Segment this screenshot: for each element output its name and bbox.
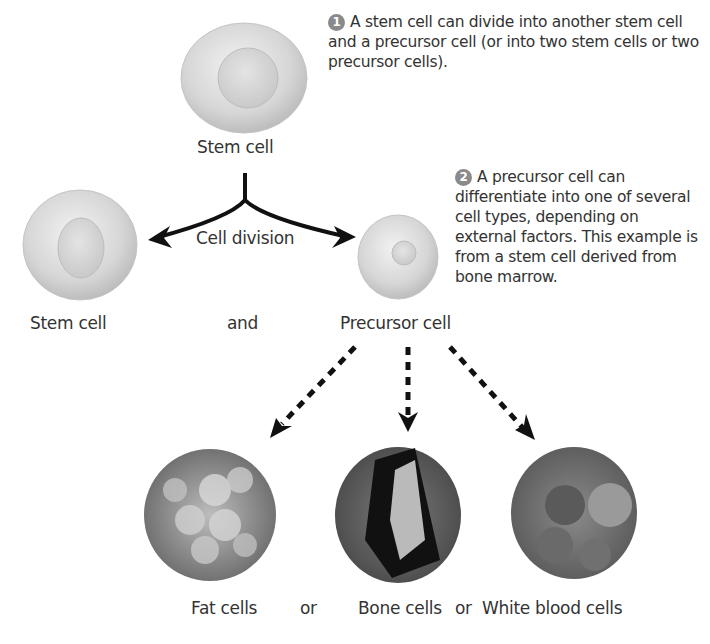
bone-cells-image — [335, 447, 461, 583]
and-label: and — [227, 313, 258, 333]
or-label-1: or — [300, 598, 317, 618]
left-stem-cell-illustration — [23, 190, 137, 300]
cell-division-label: Cell division — [196, 228, 294, 248]
fat-cells-image — [144, 449, 276, 581]
top-stem-cell-illustration — [181, 23, 307, 133]
white-blood-cells-image — [511, 447, 637, 579]
step-2-note: 2A precursor cell can differentiate into… — [455, 167, 700, 287]
white-blood-cells-label: White blood cells — [482, 598, 622, 618]
top-stem-cell-label: Stem cell — [197, 137, 273, 157]
step-1-badge: 1 — [328, 14, 345, 31]
precursor-cell-illustration — [358, 215, 438, 299]
step-2-badge: 2 — [455, 169, 472, 186]
step-2-text: A precursor cell can differentiate into … — [455, 168, 698, 286]
left-stem-cell-label: Stem cell — [30, 313, 106, 333]
or-label-2: or — [455, 598, 472, 618]
precursor-cell-label: Precursor cell — [340, 313, 451, 333]
step-1-text: A stem cell can divide into another stem… — [328, 13, 699, 71]
step-1-note: 1A stem cell can divide into another ste… — [328, 12, 708, 72]
fat-cells-label: Fat cells — [191, 598, 257, 618]
bone-cells-label: Bone cells — [358, 598, 442, 618]
